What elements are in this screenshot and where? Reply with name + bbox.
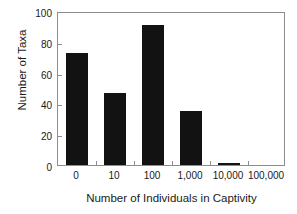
y-tick-mark bbox=[58, 105, 62, 106]
x-tick-mark bbox=[172, 161, 173, 165]
x-axis-title: Number of Individuals in Captivity bbox=[57, 192, 286, 204]
x-tick-mark bbox=[210, 161, 211, 165]
y-tick-label: 60 bbox=[41, 69, 52, 80]
bar-1000 bbox=[180, 111, 202, 165]
x-tick-label: 100 bbox=[144, 170, 161, 181]
x-tick-label: 10 bbox=[108, 170, 119, 181]
bar-0 bbox=[66, 53, 88, 165]
y-tick-mark bbox=[58, 136, 62, 137]
y-tick-label: 100 bbox=[35, 8, 52, 19]
bar-10 bbox=[104, 93, 126, 165]
y-tick-label: 80 bbox=[41, 38, 52, 49]
plot-area: 020406080100 bbox=[57, 12, 285, 166]
y-tick-mark bbox=[58, 44, 62, 45]
y-axis-title: Number of Taxa bbox=[16, 0, 28, 140]
y-tick-label: 20 bbox=[41, 131, 52, 142]
bar-100 bbox=[142, 25, 164, 165]
x-tick-label: 1,000 bbox=[177, 170, 202, 181]
x-tick-label: 0 bbox=[73, 170, 79, 181]
x-tick-label: 10,000 bbox=[213, 170, 244, 181]
y-tick-label: 0 bbox=[46, 162, 52, 173]
chart-figure: Number of Taxa 020406080100 Number of In… bbox=[0, 0, 297, 214]
x-tick-mark bbox=[248, 161, 249, 165]
y-tick-mark bbox=[58, 75, 62, 76]
plot-inner: 020406080100 bbox=[58, 13, 284, 165]
x-tick-mark bbox=[96, 161, 97, 165]
y-tick-label: 40 bbox=[41, 100, 52, 111]
x-tick-mark bbox=[134, 161, 135, 165]
x-tick-label: 100,000 bbox=[248, 170, 284, 181]
bar-10000 bbox=[218, 163, 240, 165]
